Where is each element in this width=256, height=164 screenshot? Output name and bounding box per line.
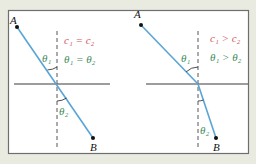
angle-relation: θ₁ = θ₂ — [64, 53, 96, 65]
point-b — [91, 136, 95, 140]
speed-relation: c₁ = c₂ — [64, 34, 95, 46]
point-b-label: B — [90, 141, 97, 153]
point-a-label: A — [133, 8, 141, 20]
point-b — [214, 136, 218, 140]
speed-relation: c₁ > c₂ — [210, 32, 241, 44]
theta1-label: θ₁ — [181, 52, 190, 64]
theta1-label: θ₁ — [42, 52, 51, 64]
point-a-label: A — [9, 14, 17, 26]
point-a — [139, 23, 143, 27]
refraction-diagram: A B θ₁ θ₂ c₁ = c₂ θ₁ = θ₂ A B θ₁ θ₂ c₁ >… — [0, 0, 256, 164]
theta2-label: θ₂ — [200, 124, 209, 136]
angle-relation: θ₁ > θ₂ — [210, 51, 242, 63]
theta2-label: θ₂ — [59, 105, 68, 117]
point-b-label: B — [213, 141, 220, 153]
